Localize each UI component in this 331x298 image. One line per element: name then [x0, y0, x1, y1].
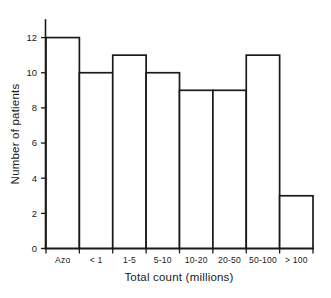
x-axis-title: Total count (millions) [124, 271, 233, 283]
y-tick-label: 12 [26, 32, 37, 43]
y-tick-label: 2 [32, 208, 37, 219]
x-tick-label: 5-10 [154, 255, 172, 265]
histogram-chart: 024681012 Azo< 11-55-1010-2020-5050-100>… [0, 0, 331, 298]
bar-15 [113, 55, 146, 248]
y-tick-label: 4 [32, 173, 37, 184]
bar-510 [146, 73, 179, 249]
x-tick-label: Azo [55, 255, 70, 265]
y-tick-label: 6 [32, 137, 37, 148]
x-tick-label: 50-100 [249, 255, 277, 265]
x-tick-label: 1-5 [123, 255, 136, 265]
bar-1 [79, 73, 112, 249]
chart-canvas: 024681012 Azo< 11-55-1010-2020-5050-100>… [0, 0, 331, 298]
bar-1020 [180, 90, 213, 248]
bar-100 [280, 196, 313, 249]
bar-2050 [213, 90, 246, 248]
x-tick-label: 20-50 [218, 255, 241, 265]
y-axis-title: Number of patients [9, 84, 21, 185]
x-tick-label: 10-20 [185, 255, 208, 265]
bar-50100 [246, 55, 279, 248]
x-tick-label: < 1 [90, 255, 103, 265]
y-tick-label: 10 [26, 67, 37, 78]
y-tick-label: 0 [32, 243, 37, 254]
y-tick-label: 8 [32, 102, 37, 113]
bar-Azo [46, 38, 79, 249]
x-tick-label: > 100 [285, 255, 308, 265]
